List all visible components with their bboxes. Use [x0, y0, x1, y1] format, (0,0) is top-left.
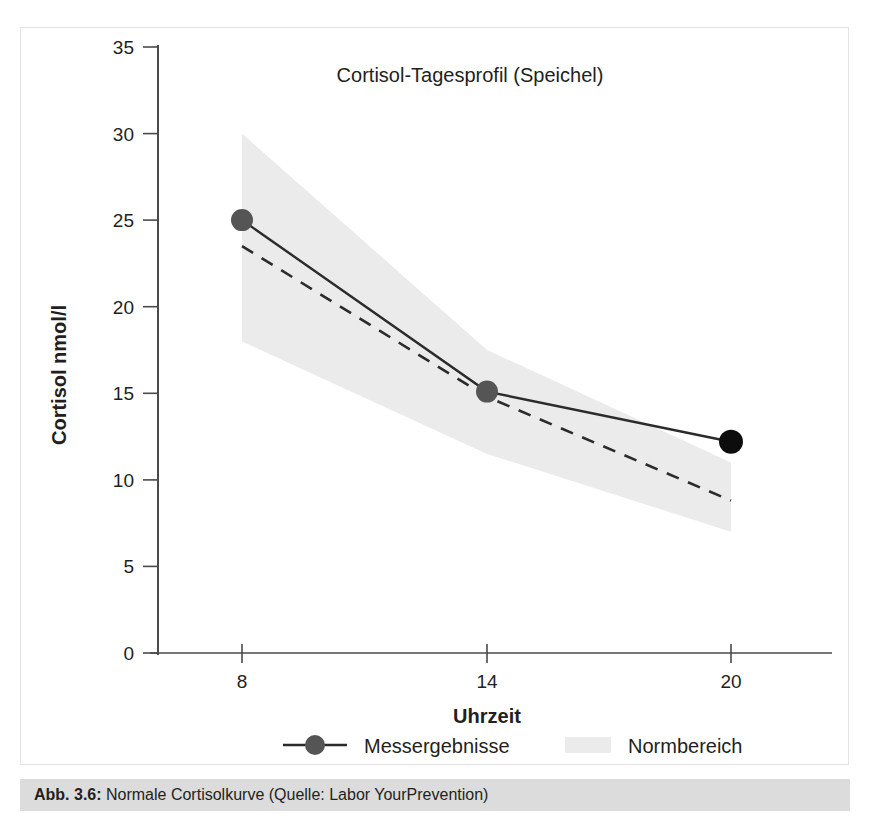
y-tick-label: 20 [113, 297, 134, 318]
legend-label: Messergebnisse [364, 735, 510, 757]
y-axis-ticks [143, 47, 158, 653]
x-axis-tick-labels: 8 14 20 [237, 671, 742, 692]
y-tick-label: 5 [123, 556, 134, 577]
data-point-marker [719, 430, 743, 454]
y-tick-label: 25 [113, 210, 134, 231]
y-axis-tick-labels: 35 30 25 20 15 10 5 0 [113, 37, 134, 664]
legend: Messergebnisse Normbereich [283, 735, 742, 757]
norm-range-band [242, 134, 731, 532]
x-tick-label: 20 [720, 671, 741, 692]
y-tick-label: 15 [113, 383, 134, 404]
data-point-marker [476, 381, 498, 403]
legend-circle-marker-icon [305, 735, 325, 755]
x-tick-label: 14 [476, 671, 498, 692]
legend-item-normbereich: Normbereich [565, 735, 742, 757]
chart-title: Cortisol-Tagesprofil (Speichel) [337, 64, 604, 86]
data-point-marker [231, 209, 253, 231]
legend-item-messergebnisse: Messergebnisse [283, 735, 510, 757]
x-tick-label: 8 [237, 671, 248, 692]
figure-number: Abb. 3.6: [34, 786, 102, 803]
y-tick-label: 35 [113, 37, 134, 58]
figure-caption: Abb. 3.6: Normale Cortisolkurve (Quelle:… [34, 786, 488, 804]
legend-band-swatch-icon [565, 737, 611, 753]
y-tick-label: 10 [113, 470, 134, 491]
y-tick-label: 0 [123, 643, 134, 664]
figure-caption-text: Normale Cortisolkurve (Quelle: Labor You… [102, 786, 489, 803]
legend-label: Normbereich [628, 735, 742, 757]
x-axis-title: Uhrzeit [453, 705, 521, 727]
figure-caption-bar: Abb. 3.6: Normale Cortisolkurve (Quelle:… [20, 779, 850, 811]
y-axis-title: Cortisol nmol/l [48, 305, 70, 445]
figure-container: 35 30 25 20 15 10 5 0 8 14 20 Cortisol-T… [0, 0, 879, 818]
y-tick-label: 30 [113, 124, 134, 145]
cortisol-daily-profile-chart: 35 30 25 20 15 10 5 0 8 14 20 Cortisol-T… [0, 0, 879, 818]
